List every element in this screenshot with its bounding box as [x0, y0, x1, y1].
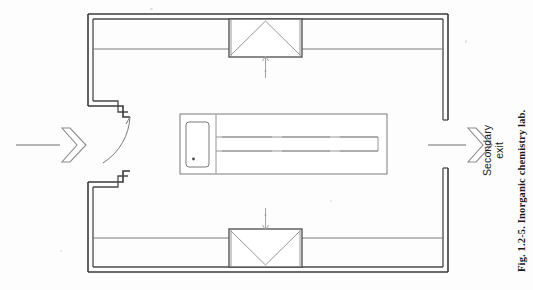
figure-caption-number: Fig. 1.2-5.: [516, 226, 527, 272]
door-swing-arc: [103, 117, 130, 163]
figure-caption-text: Inorganic chemistry lab.: [516, 110, 527, 226]
figure-container: .wall { fill:none; stroke:#3a3a3a; strok…: [0, 0, 533, 290]
secondary-exit-line1: Secondary: [481, 125, 493, 176]
island-bench: [180, 114, 387, 174]
top-fume-hood: [229, 19, 302, 57]
figure-caption: Fig. 1.2-5. Inorganic chemistry lab.: [516, 110, 527, 272]
airflow-arrow-down: [263, 208, 269, 230]
secondary-exit-label: Secondaryexit: [482, 125, 505, 176]
island-sink-drain: [192, 158, 195, 161]
door-jambs: [88, 101, 130, 187]
entrance-direction-arrow[interactable]: [16, 128, 86, 162]
bottom-fume-hood: [229, 229, 302, 267]
island-sink-unit: [186, 122, 209, 167]
floor-plan-drawing: .wall { fill:none; stroke:#3a3a3a; strok…: [0, 0, 533, 290]
airflow-arrow-up: [263, 56, 269, 78]
secondary-exit-opening: [443, 120, 448, 168]
secondary-exit-line2: exit: [494, 125, 506, 176]
